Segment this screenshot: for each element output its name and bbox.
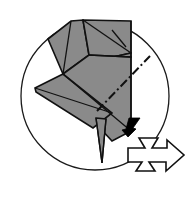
- origami-diagram-root: [0, 0, 188, 198]
- origami-diagram-svg: [0, 0, 188, 198]
